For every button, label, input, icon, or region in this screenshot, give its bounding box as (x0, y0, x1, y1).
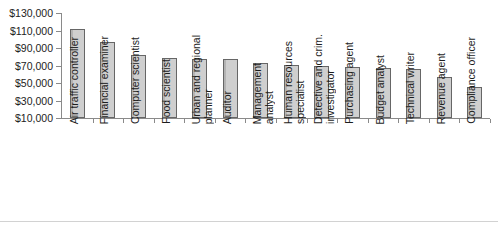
x-axis-label-line: Food scientist (160, 59, 172, 124)
x-axis-tick (459, 119, 460, 123)
x-axis-label-line: specialist (293, 81, 305, 124)
y-axis-tick-label: $10,000 (15, 113, 53, 124)
x-axis-label: Human resourcesspecialist (283, 41, 306, 124)
x-axis-tick (337, 119, 338, 123)
y-axis-tick (56, 118, 62, 119)
x-axis-label: Purchasing agent (344, 42, 356, 124)
y-axis-tick-label: $130,000 (9, 8, 53, 19)
bottom-divider (0, 221, 498, 222)
y-axis-tick-label: $90,000 (15, 43, 53, 54)
x-axis-tick (123, 119, 124, 123)
x-axis-tick (93, 119, 94, 123)
x-axis-label-line: Urban and regional (190, 35, 202, 124)
x-axis-label: Compliance officer (466, 37, 478, 124)
x-axis-label: Air traffic controller (69, 37, 81, 124)
x-axis-label: Auditor (222, 91, 234, 124)
bar-chart: $130,000$110,000$90,000$70,000$50,000$30… (0, 0, 498, 234)
x-axis-label-line: Air traffic controller (68, 37, 80, 124)
x-axis-label: Urban and regionalplanner (191, 35, 214, 124)
x-axis-label: Financial examiner (99, 36, 111, 124)
x-axis-label: Detective and crim.investigator (313, 34, 336, 124)
x-axis-label: Computer scientist (130, 37, 142, 124)
y-axis-tick-label: $70,000 (15, 60, 53, 71)
x-axis-tick (245, 119, 246, 123)
y-axis-tick-label: $30,000 (15, 95, 53, 106)
x-axis-label-line: Management (251, 63, 263, 124)
x-axis-label-line: Human resources (282, 41, 294, 124)
x-axis-label-line: Auditor (221, 91, 233, 124)
plot-area (62, 13, 490, 118)
x-axis-tick (490, 119, 491, 123)
x-axis-label-line: analyst (263, 91, 275, 124)
y-axis-tick-label: $110,000 (10, 25, 53, 36)
x-axis-label: Managementanalyst (252, 63, 275, 124)
x-axis-tick (184, 119, 185, 123)
x-axis-label-line: Purchasing agent (343, 42, 355, 124)
x-axis-tick (276, 119, 277, 123)
x-axis-label-line: Financial examiner (98, 36, 110, 124)
x-axis-tick (215, 119, 216, 123)
x-axis-label: Revenue agent (436, 53, 448, 124)
x-axis-label-line: Revenue agent (435, 53, 447, 124)
x-axis-tick (154, 119, 155, 123)
x-axis-tick (368, 119, 369, 123)
x-axis-label: Food scientist (161, 59, 173, 124)
y-axis-tick-label: $50,000 (15, 78, 53, 89)
x-axis-label-line: Technical writer (404, 52, 416, 124)
x-axis-label-line: planner (202, 89, 214, 124)
x-axis-label-line: Compliance officer (465, 37, 477, 124)
x-axis-tick (398, 119, 399, 123)
x-axis-tick (429, 119, 430, 123)
x-axis-label: Budget analyst (375, 55, 387, 124)
x-axis-label-line: investigator (324, 70, 336, 124)
x-axis-label-line: Computer scientist (129, 37, 141, 124)
x-axis-label-line: Budget analyst (374, 55, 386, 124)
x-axis-label: Technical writer (405, 52, 417, 124)
x-axis-tick (307, 119, 308, 123)
